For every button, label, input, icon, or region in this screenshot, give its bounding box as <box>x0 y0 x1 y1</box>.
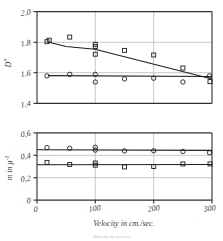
xtick-label-300: 300 <box>202 203 216 214</box>
fit-line-flat-upper <box>48 76 212 77</box>
xtick-label-200: 200 <box>147 203 160 214</box>
y-axis-label-m: m in μ-1 <box>4 155 14 180</box>
ytick-label-1-4: 1,4 <box>20 99 31 109</box>
y-axis-label-m-exponent: -1 <box>4 155 10 160</box>
marker-square <box>68 35 72 39</box>
ytick-label-2-0: 2,0 <box>20 8 31 18</box>
lower-panel-y-ticklabels: 0,6 0,4 0,2 0 <box>20 129 31 206</box>
upper-panel-circle-markers <box>45 72 212 84</box>
xtick-label-100: 100 <box>88 203 101 214</box>
ytick-label-0: 0 <box>26 196 31 205</box>
marker-square <box>123 48 127 52</box>
upper-panel-y-ticklabels: 2,0 1,8 1,6 1,4 <box>20 8 31 110</box>
marker-square <box>208 80 212 84</box>
figure-container: 2,0 1,8 1,6 1,4 D* <box>0 0 223 241</box>
lower-panel-y-axis-title: m in μ-1 <box>4 155 14 180</box>
marker-circle <box>207 151 211 155</box>
lower-panel-x-ticklabels: 0 100 200 300 <box>33 203 216 214</box>
xtick-label-0: 0 <box>33 205 38 214</box>
plot-canvas: 2,0 1,8 1,6 1,4 D* <box>0 0 223 241</box>
lower-panel-frame <box>37 133 212 200</box>
fit-line-declining <box>48 42 212 79</box>
marker-circle <box>122 149 126 153</box>
upper-panel: 2,0 1,8 1,6 1,4 D* <box>3 8 212 110</box>
marker-square <box>123 165 127 169</box>
marker-square <box>181 162 185 166</box>
ytick-label-0-4: 0,4 <box>20 151 31 161</box>
ytick-label-0-6: 0,6 <box>20 129 31 139</box>
upper-panel-frame <box>37 12 212 104</box>
x-axis-label: Velocity in cm./sec. <box>93 219 154 228</box>
y-axis-label-D-superscript: * <box>3 59 9 62</box>
upper-panel-y-axis-title: D* <box>3 59 13 69</box>
y-axis-label-m-lead: m in <box>5 165 14 181</box>
fit-line-flat-circles-lower <box>37 150 212 151</box>
marker-circle <box>207 74 211 78</box>
ytick-label-1-6: 1,6 <box>20 69 31 79</box>
marker-circle <box>122 77 126 81</box>
upper-panel-gridlines <box>37 12 212 103</box>
marker-square <box>208 162 212 166</box>
lower-panel: 0,6 0,4 0,2 0 m in μ-1 <box>4 129 216 228</box>
ytick-label-1-8: 1,8 <box>20 38 31 48</box>
marker-circle <box>45 145 49 149</box>
lower-panel-gridlines <box>37 133 212 200</box>
ytick-label-0-2: 0,2 <box>20 174 31 184</box>
marker-circle <box>181 80 185 84</box>
y-axis-label-D: D* <box>3 59 13 69</box>
figure-caption-remnant: Velocity in cm./sec. <box>93 234 131 239</box>
marker-square <box>181 66 185 70</box>
marker-square <box>45 160 49 164</box>
